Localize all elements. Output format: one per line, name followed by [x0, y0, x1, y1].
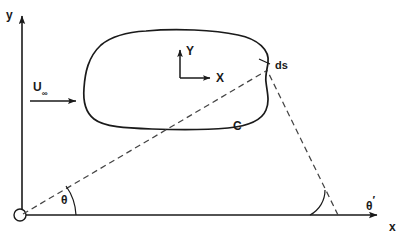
body-X-axis-label: X [216, 72, 224, 84]
theta-prime-arc [310, 190, 325, 215]
freestream-symbol: U [33, 80, 42, 94]
contour-label-C: C [233, 120, 242, 132]
global-y-axis-label: y [6, 9, 13, 21]
theta-angle-label: θ [61, 194, 68, 206]
angle-arcs-group [66, 186, 325, 215]
theta-prime-symbol: θ [366, 199, 373, 213]
freestream-label: U∞ [33, 81, 47, 96]
theta-arc [66, 186, 76, 215]
body-contour-group [84, 30, 268, 130]
ds-element-label: ds [275, 60, 288, 71]
theta-prime-angle-label: θ′ [366, 196, 375, 212]
dashed-line-from-origin [23, 71, 266, 214]
body-Y-axis-label: Y [186, 45, 194, 57]
theta-prime-mark: ′ [373, 194, 376, 206]
flow-geometry-figure: y x U∞ Y X ds C θ θ′ [0, 0, 404, 239]
body-contour-curve [84, 30, 268, 130]
body-axes-group [180, 50, 210, 78]
freestream-subscript-infinity: ∞ [42, 89, 48, 98]
global-x-axis-label: x [389, 221, 396, 233]
global-origin-marker [14, 209, 26, 221]
dashed-line-from-theta-prime-vertex [267, 70, 338, 215]
